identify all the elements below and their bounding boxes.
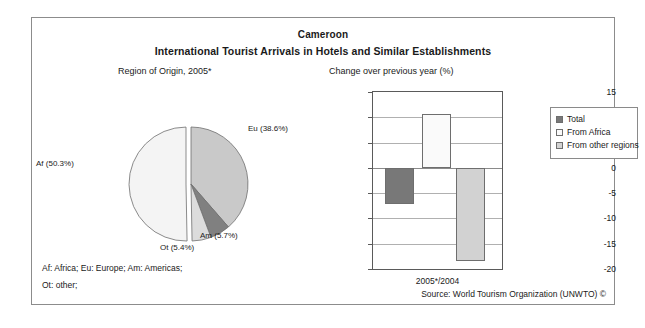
legend-label: Total (567, 114, 585, 124)
bar-chart-x-tick-label: 2005*/2004 (372, 276, 503, 286)
pie-chart: Af (50.3%) Eu (38.6%) Am (5.7%) Ot (5.4%… (32, 80, 322, 260)
bar-chart-legend: TotalFrom AfricaFrom other regions (550, 107, 638, 159)
legend-swatch-icon (556, 116, 563, 123)
y-tick-label--15: -15 (570, 239, 616, 249)
pie-slice-label-americas: Am (5.7%) (200, 231, 238, 240)
legend-item-total[interactable]: Total (556, 114, 633, 124)
pie-slice-label-other: Ot (5.4%) (160, 243, 194, 252)
chart-frame: Cameroon International Tourist Arrivals … (31, 17, 615, 305)
source-note: Source: World Tourism Organization (UNWT… (421, 289, 606, 299)
pie-chart-svg (32, 80, 322, 260)
footnote-abbreviations-line1: Af: Africa; Eu: Europe; Am: Americas; (42, 263, 182, 273)
y-tick-label--10: -10 (570, 213, 616, 223)
bar-from-other-regions (456, 168, 485, 262)
pie-slice-label-africa: Af (50.3%) (36, 159, 74, 168)
y-tick-label-0: 0 (570, 163, 616, 173)
pie-slice-af (129, 127, 187, 241)
page-title: Cameroon (32, 29, 614, 40)
bar-chart-title: Change over previous year (%) (329, 66, 454, 76)
bar-chart: 151050-5-10-15-20 2005*/2004 TotalFrom A… (321, 80, 616, 280)
pie-slice-label-europe: Eu (38.6%) (248, 124, 288, 133)
y-tick-label-15: 15 (570, 87, 616, 97)
legend-item-from-other-regions[interactable]: From other regions (556, 140, 633, 150)
bar-total (385, 168, 414, 204)
legend-label: From Africa (567, 127, 610, 137)
legend-label: From other regions (567, 140, 639, 150)
bar-chart-plot-area (372, 91, 503, 270)
bar-from-africa (422, 114, 451, 168)
pie-chart-title: Region of Origin, 2005* (118, 66, 212, 76)
legend-swatch-icon (556, 129, 563, 136)
legend-swatch-icon (556, 142, 563, 149)
footnote-abbreviations-line2: Ot: other; (42, 280, 77, 290)
y-tick-label--20: -20 (570, 264, 616, 274)
legend-item-from-africa[interactable]: From Africa (556, 127, 633, 137)
y-tick-label--5: -5 (570, 188, 616, 198)
page-subtitle: International Tourist Arrivals in Hotels… (32, 45, 614, 57)
